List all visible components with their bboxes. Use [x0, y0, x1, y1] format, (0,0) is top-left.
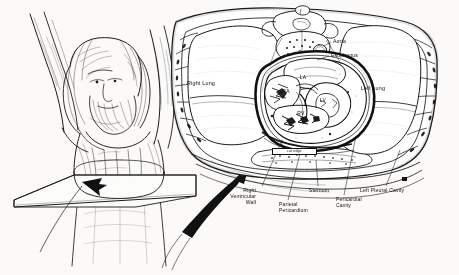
- label-aorta: Aorta: [333, 38, 373, 44]
- label-lv: LV: [314, 97, 332, 103]
- label-right-ventricular-wall: Right Ventricular Wall: [212, 187, 256, 206]
- label-la: LA: [294, 74, 312, 80]
- label-left-pleural-cavity: Left Pleural Cavity: [360, 187, 424, 193]
- label-esophagus: Esophagus: [331, 52, 379, 58]
- label-pericardial-cavity: Pericardial Cavity: [336, 196, 376, 208]
- label-left-lung: Left Lung: [350, 85, 396, 91]
- anatomy-line-art: [0, 0, 459, 275]
- label-rv: RV: [292, 110, 310, 116]
- label-ra: RA: [277, 88, 295, 94]
- artist-signature-mark: [402, 176, 407, 182]
- anatomical-figure-root: Right Lung Left Lung Aorta Esophagus LA …: [0, 0, 459, 275]
- label-cut-edge-note: cut edge: [272, 148, 317, 155]
- label-parietal-pericardium: Parietal Pericardium: [279, 201, 323, 213]
- label-sternum: Sternum: [300, 187, 338, 193]
- label-right-lung: Right Lung: [178, 80, 224, 86]
